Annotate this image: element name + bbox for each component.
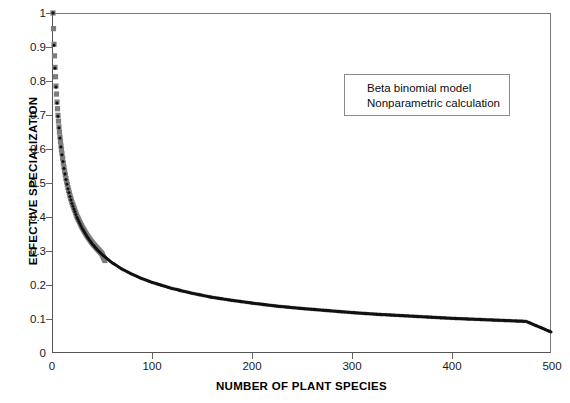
y-tick-label-0-1: 0.1 xyxy=(8,313,46,325)
x-tick-mark-200 xyxy=(252,353,253,359)
y-tick-mark-0-7 xyxy=(46,115,52,116)
x-tick-label-100: 100 xyxy=(127,360,177,372)
x-tick-label-300: 300 xyxy=(327,360,377,372)
legend-label-beta-binomial: Beta binomial model xyxy=(367,82,471,94)
x-tick-mark-400 xyxy=(452,353,453,359)
x-tick-label-200: 200 xyxy=(227,360,277,372)
x-tick-label-0: 0 xyxy=(27,360,77,372)
legend-label-nonparametric: Nonparametric calculation xyxy=(367,97,500,109)
legend: Beta binomial model Nonparametric calcul… xyxy=(344,74,510,116)
chart-figure: 1 0.9 0.8 0.7 0.6 0.5 0.4 0.3 0.2 0.1 0 … xyxy=(0,0,570,403)
y-tick-label-0: 0 xyxy=(8,347,46,359)
y-tick-mark-0-9 xyxy=(46,47,52,48)
y-tick-mark-0-6 xyxy=(46,149,52,150)
legend-item-nonparametric: Nonparametric calculation xyxy=(352,95,500,110)
x-tick-mark-100 xyxy=(152,353,153,359)
y-tick-mark-0-8 xyxy=(46,81,52,82)
plot-area xyxy=(52,13,551,353)
y-tick-mark-0-1 xyxy=(46,319,52,320)
y-tick-mark-0-2 xyxy=(46,285,52,286)
x-axis-title: NUMBER OF PLANT SPECIES xyxy=(52,380,551,392)
y-tick-mark-1 xyxy=(46,13,52,14)
y-tick-label-0-9: 0.9 xyxy=(8,41,46,53)
y-tick-mark-0-4 xyxy=(46,217,52,218)
x-tick-label-500: 500 xyxy=(527,360,570,372)
y-axis-title: EFFECTIVE SPECIALIZATION xyxy=(27,56,39,306)
y-tick-label-1: 1 xyxy=(8,7,46,19)
y-tick-mark-0-3 xyxy=(46,251,52,252)
legend-item-beta-binomial: Beta binomial model xyxy=(352,80,500,95)
x-tick-label-400: 400 xyxy=(427,360,477,372)
x-tick-mark-300 xyxy=(352,353,353,359)
y-tick-mark-0-5 xyxy=(46,183,52,184)
